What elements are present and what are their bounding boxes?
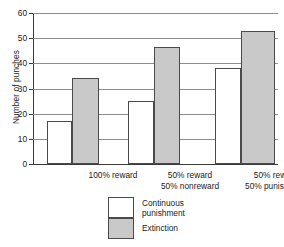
x-axis-label-3: 50% reward 50% punishment: [216, 170, 284, 191]
gridline-60: [33, 13, 278, 14]
legend-label-continuous-punishment: Continuous punishment: [142, 198, 185, 218]
legend-swatch-extinction: [108, 218, 134, 239]
legend-label-extinction: Extinction: [142, 223, 178, 233]
bar-continuous-punishment-1: [47, 121, 72, 164]
bar-extinction-3: [241, 31, 275, 164]
y-tick-label-40: 40: [0, 59, 27, 67]
y-tick-mark-10: [29, 139, 33, 140]
bar-continuous-punishment-2: [128, 101, 154, 164]
y-tick-label-60: 60: [0, 9, 27, 17]
y-tick-mark-50: [29, 38, 33, 39]
y-tick-mark-0: [29, 164, 33, 165]
y-tick-mark-20: [29, 114, 33, 115]
y-tick-mark-30: [29, 89, 33, 90]
chart-legend: Continuous punishment Extinction: [108, 197, 268, 243]
bar-extinction-2: [154, 47, 180, 164]
y-tick-label-10: 10: [0, 135, 27, 143]
y-tick-label-0: 0: [0, 160, 27, 168]
gridline-0: [33, 164, 278, 165]
legend-swatch-continuous-punishment: [108, 197, 134, 218]
y-tick-mark-40: [29, 63, 33, 64]
bar-chart: Number of punches 0102030405060 100% rew…: [0, 0, 284, 247]
y-tick-label-30: 30: [0, 85, 27, 93]
bar-extinction-1: [72, 78, 99, 164]
bar-continuous-punishment-3: [215, 68, 241, 164]
y-tick-label-50: 50: [0, 34, 27, 42]
y-tick-mark-60: [29, 13, 33, 14]
y-tick-label-20: 20: [0, 110, 27, 118]
plot-area: [33, 13, 278, 164]
